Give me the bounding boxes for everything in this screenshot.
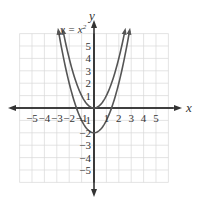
x-tick-label: 5 [153,112,159,124]
curve-label-y-equals-x-squared: y = x2 [59,23,87,35]
y-axis-label: y [87,8,95,23]
x-tick-label: 1 [104,112,110,124]
y-tick-label: −5 [79,164,91,176]
x-axis-label: x [185,100,192,115]
x-tick-label: 4 [141,112,147,124]
y-tick-label: −1 [79,114,91,126]
y-tick-label: 5 [86,40,92,52]
y-tick-label: −3 [79,139,91,151]
y-tick-label: 1 [86,90,92,102]
y-tick-label: 2 [86,77,92,89]
x-tick-label: −5 [26,112,38,124]
y-tick-label: −2 [79,127,91,139]
x-tick-label: 3 [128,112,134,124]
x-tick-label: 2 [116,112,122,124]
x-tick-label: −3 [51,112,63,124]
y-tick-label: 3 [86,65,92,77]
y-tick-label: 4 [86,52,92,64]
x-tick-label: −4 [39,112,51,124]
y-tick-label: −4 [79,152,91,164]
x-tick-label: −2 [63,112,75,124]
coordinate-plane: −5−4−3−2−11234554321−1−2−3−4−5 x y y = x… [0,0,198,199]
